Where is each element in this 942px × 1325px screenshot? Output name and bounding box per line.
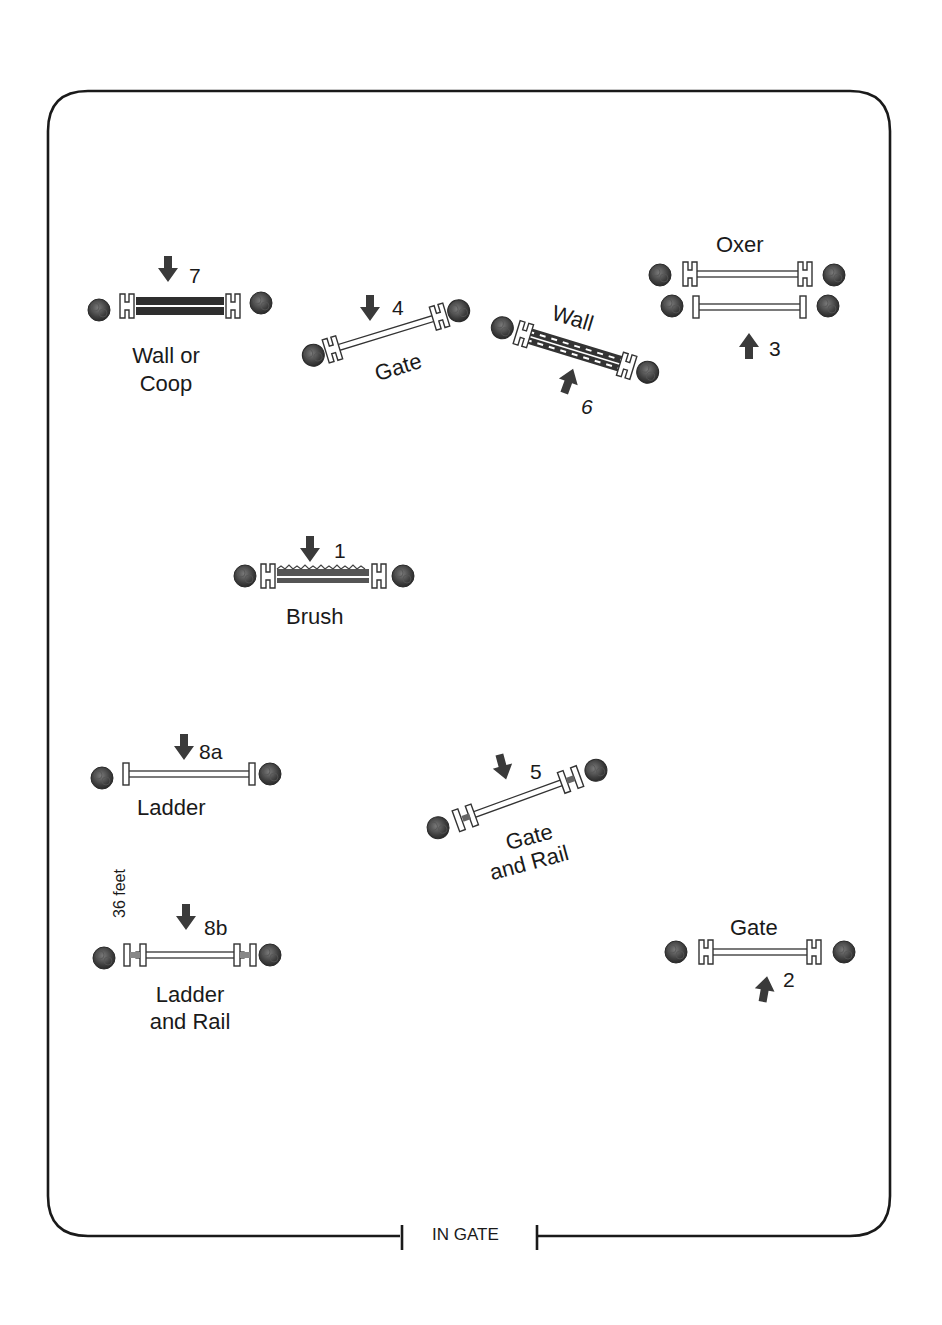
jump-7-name-line2: Coop — [126, 372, 206, 396]
jump-8a-ladder — [91, 763, 281, 789]
jump-2-name: Gate — [730, 916, 778, 940]
jump-8a-number: 8a — [199, 740, 222, 763]
jump-8a-name: Ladder — [137, 796, 206, 820]
jump-1-arrow-icon — [300, 536, 320, 562]
jump-4-arrow-icon — [360, 295, 380, 321]
jump-3-name: Oxer — [716, 233, 764, 257]
jump-1-name: Brush — [286, 605, 343, 629]
jump-2-number: 2 — [783, 968, 795, 991]
course-diagram — [0, 0, 942, 1325]
jump-6-arrow-icon — [555, 365, 583, 396]
jump-3-number: 3 — [769, 337, 781, 360]
jump-7-wall-or-coop — [88, 292, 272, 321]
jump-1-number: 1 — [334, 539, 346, 562]
jump-3-arrow-icon — [739, 333, 759, 359]
in-gate-label: IN GATE — [432, 1226, 499, 1245]
jump-5-arrow-icon — [490, 752, 516, 782]
jump-8b-name-line2: and Rail — [140, 1010, 240, 1034]
jump-7-name-line1: Wall or — [126, 344, 206, 368]
jump-8b-ladder-and-rail — [93, 944, 281, 969]
jump-7-number: 7 — [189, 264, 201, 287]
jump-8b-name-line1: Ladder — [140, 983, 240, 1007]
jump-8b-arrow-icon — [176, 904, 196, 930]
distance-36-feet: 36 feet — [111, 869, 129, 918]
jump-3-oxer — [649, 262, 845, 318]
jump-5-number: 5 — [530, 760, 542, 783]
jump-1-brush — [234, 564, 414, 588]
jump-2-arrow-icon — [753, 974, 777, 1003]
arena-border — [48, 91, 890, 1236]
jump-6-number: 6 — [581, 395, 593, 418]
jump-4-number: 4 — [392, 296, 404, 319]
jump-8b-number: 8b — [204, 916, 227, 939]
jump-7-arrow-icon — [158, 256, 178, 282]
jump-2-gate — [665, 940, 855, 964]
jump-8a-arrow-icon — [174, 734, 194, 760]
